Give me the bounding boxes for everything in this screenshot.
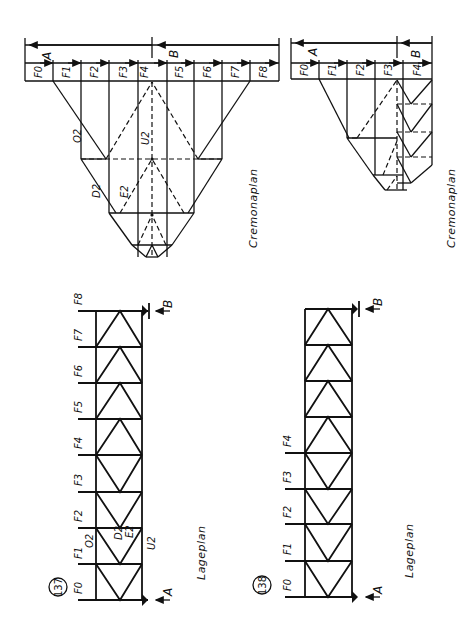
figure-number-137: 137 <box>53 578 64 597</box>
label-f3: F3 <box>118 66 129 78</box>
label-f5: F5 <box>73 401 84 413</box>
lageplan-138 <box>285 301 380 603</box>
support-a-icon <box>352 591 358 603</box>
label-b: B <box>161 300 175 308</box>
truss-diagram-canvas: F0 F1 F2 F3 F4 F5 F6 F7 F8 A B O2 U2 D2 … <box>0 0 476 628</box>
label-f6: F6 <box>73 365 84 377</box>
label-f0: F0 <box>299 64 310 76</box>
label-f3: F3 <box>73 474 84 486</box>
label-f0: F0 <box>282 579 293 591</box>
label-e2: E2 <box>124 525 135 538</box>
label-f4: F4 <box>139 66 150 78</box>
label-f4: F4 <box>73 437 84 449</box>
label-f2: F2 <box>89 66 100 78</box>
label-f1: F1 <box>73 547 84 559</box>
lageplan-137 <box>78 303 170 606</box>
label-f2: F2 <box>282 506 293 518</box>
label-o2: O2 <box>84 534 95 548</box>
label-e2: E2 <box>119 185 130 198</box>
lageplan-138-caption: Lageplan <box>403 524 416 578</box>
cremona137-labels: F0 F1 F2 F3 F4 F5 F6 F7 F8 A B O2 U2 D2 … <box>33 50 269 248</box>
label-a: A <box>371 586 385 595</box>
cremona138-labels: F0 F1 F2 F3 F4 A B Cremonaplan <box>299 48 458 248</box>
label-f1: F1 <box>61 66 72 78</box>
label-f5: F5 <box>174 66 185 78</box>
verticals <box>78 311 148 600</box>
label-f4: F4 <box>412 64 423 76</box>
label-f1: F1 <box>282 543 293 555</box>
cremonaplan-138-caption: Cremonaplan <box>445 169 458 248</box>
label-b: B <box>167 50 181 58</box>
label-f4: F4 <box>282 435 293 447</box>
support-b-icon <box>352 303 358 315</box>
label-f0: F0 <box>33 66 44 78</box>
label-o2: O2 <box>72 129 83 143</box>
label-u2: U2 <box>146 536 157 550</box>
label-d2: D2 <box>113 526 124 540</box>
label-f3: F3 <box>282 471 293 483</box>
label-f2: F2 <box>355 64 366 76</box>
label-d2: D2 <box>91 184 102 198</box>
label-a: A <box>306 48 320 57</box>
label-f7: F7 <box>230 65 241 78</box>
label-f8: F8 <box>73 293 84 305</box>
support-a-icon <box>142 594 148 606</box>
support-b-icon <box>142 305 148 317</box>
label-f3: F3 <box>383 64 394 76</box>
label-f2: F2 <box>73 510 84 522</box>
label-f0: F0 <box>73 582 84 594</box>
label-b: B <box>371 298 385 306</box>
label-f7: F7 <box>73 328 84 341</box>
cremonaplan-138 <box>291 36 432 190</box>
label-b: B <box>409 50 423 58</box>
label-u2: U2 <box>140 131 151 145</box>
label-f8: F8 <box>258 66 269 78</box>
figure-number-138: 138 <box>257 576 268 595</box>
cremonaplan-137-caption: Cremonaplan <box>247 169 260 248</box>
label-f6: F6 <box>202 66 213 78</box>
label-f1: F1 <box>327 64 338 76</box>
label-a: A <box>161 588 175 597</box>
label-a: A <box>40 52 54 61</box>
lageplan-137-caption: Lageplan <box>195 526 208 580</box>
